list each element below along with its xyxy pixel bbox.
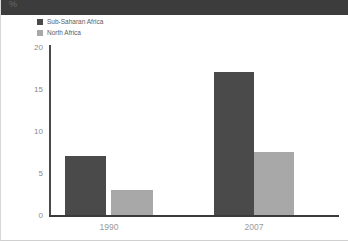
bar-1990-sub-saharan-africa (65, 156, 106, 215)
bar-2007-sub-saharan-africa (214, 72, 254, 215)
x-axis-line (49, 215, 339, 217)
y-tick-label: 5 (39, 169, 43, 178)
x-tick-label-2007: 2007 (245, 222, 264, 232)
legend-swatch-north-africa (37, 30, 43, 36)
legend-label-north-africa: North Africa (47, 29, 81, 37)
y-tick-label: 0 (39, 211, 43, 220)
chart-figure: % Sub-Saharan Africa North Africa 20 15 … (0, 0, 348, 241)
y-tick-label: 10 (34, 127, 43, 136)
y-tick-label: 15 (34, 85, 43, 94)
legend-swatch-sub-saharan-africa (37, 19, 43, 25)
y-tick-label: 20 (34, 43, 43, 52)
header-band (1, 0, 348, 15)
bar-2007-north-africa (254, 152, 294, 215)
unit-label: % (9, 0, 17, 10)
legend-item: Sub-Saharan Africa (37, 17, 103, 26)
legend-label-sub-saharan-africa: Sub-Saharan Africa (47, 18, 103, 26)
legend-item: North Africa (37, 28, 103, 37)
chart-legend: Sub-Saharan Africa North Africa (37, 17, 103, 39)
x-tick-label-1990: 1990 (100, 222, 119, 232)
bar-1990-north-africa (111, 190, 153, 215)
bars-container (49, 47, 339, 215)
y-axis-ticks: 20 15 10 5 0 (15, 47, 43, 215)
